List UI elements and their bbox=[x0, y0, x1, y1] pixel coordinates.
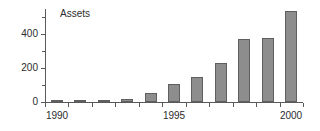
bar-1996 bbox=[191, 77, 203, 102]
bar-series bbox=[0, 0, 320, 131]
bar-1997 bbox=[215, 63, 227, 102]
assets-bar-chart: Assets 0200400 199019952000 bbox=[0, 0, 320, 131]
bar-1993 bbox=[121, 99, 133, 102]
bar-2000 bbox=[285, 11, 297, 102]
bar-1991 bbox=[74, 100, 86, 102]
bar-1994 bbox=[145, 93, 157, 102]
bar-1990 bbox=[51, 100, 63, 102]
bar-1998 bbox=[238, 39, 250, 102]
bar-1999 bbox=[262, 38, 274, 102]
bar-1992 bbox=[98, 100, 110, 102]
bar-1995 bbox=[168, 84, 180, 102]
